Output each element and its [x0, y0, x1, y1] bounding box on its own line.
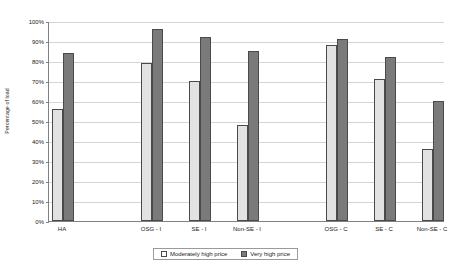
legend: Moderately high priceVery high price	[0, 248, 451, 260]
bar-group	[141, 21, 163, 221]
y-axis-title-text: Percentage of load	[4, 88, 10, 133]
light-swatch-icon	[161, 251, 167, 257]
y-axis-tick-label: 10%	[14, 199, 44, 205]
y-axis-tick-label: 100%	[14, 19, 44, 25]
bar[interactable]	[326, 45, 337, 221]
legend-item-label: Moderately high price	[170, 251, 227, 257]
y-axis-tick-labels: 0%10%20%30%40%50%60%70%80%90%100%	[14, 0, 44, 240]
bar[interactable]	[337, 39, 348, 221]
bar-group	[189, 21, 211, 221]
bar[interactable]	[152, 29, 163, 221]
x-axis-tick-label: Non-SE - I	[233, 226, 261, 232]
x-axis-tick-label: OSG - I	[141, 226, 161, 232]
x-axis-tick-labels: HAOSG - ISE - INon-SE - IOSG - CSE - CNo…	[48, 226, 444, 240]
y-axis-tick-label: 80%	[14, 59, 44, 65]
plot-area	[48, 22, 444, 222]
axis-tick-mark	[46, 182, 49, 183]
bar-group	[237, 21, 259, 221]
legend-item[interactable]: Moderately high price	[161, 251, 227, 257]
axis-tick-mark	[46, 162, 49, 163]
axis-tick-mark	[46, 22, 49, 23]
y-axis-tick-label: 30%	[14, 159, 44, 165]
bar-group	[374, 21, 396, 221]
x-axis-tick-label: Non-SE - C	[417, 226, 448, 232]
bar-group	[52, 21, 74, 221]
axis-tick-mark	[46, 62, 49, 63]
bar[interactable]	[63, 53, 74, 221]
bar-group	[326, 21, 348, 221]
bar[interactable]	[385, 57, 396, 221]
bar[interactable]	[141, 63, 152, 221]
bar[interactable]	[52, 109, 63, 221]
y-axis-tick-label: 20%	[14, 179, 44, 185]
y-axis-tick-label: 0%	[14, 219, 44, 225]
bar[interactable]	[189, 81, 200, 221]
y-axis-tick-label: 40%	[14, 139, 44, 145]
legend-item[interactable]: Very high price	[241, 251, 290, 257]
dark-swatch-icon	[241, 251, 247, 257]
legend-box: Moderately high priceVery high price	[153, 248, 298, 260]
axis-tick-mark	[46, 202, 49, 203]
x-axis-tick-label: OSG - C	[324, 226, 347, 232]
y-axis-title: Percentage of load	[2, 0, 12, 222]
axis-tick-mark	[46, 142, 49, 143]
bar[interactable]	[200, 37, 211, 221]
legend-item-label: Very high price	[250, 251, 290, 257]
bar[interactable]	[374, 79, 385, 221]
bar[interactable]	[422, 149, 433, 221]
bar[interactable]	[248, 51, 259, 221]
axis-tick-mark	[46, 82, 49, 83]
x-axis-tick-label: HA	[58, 226, 66, 232]
bar-group	[422, 21, 444, 221]
axis-tick-mark	[46, 102, 49, 103]
bar[interactable]	[433, 101, 444, 221]
bar-chart: Percentage of load 0%10%20%30%40%50%60%7…	[0, 0, 451, 266]
y-axis-tick-label: 90%	[14, 39, 44, 45]
bar[interactable]	[237, 125, 248, 221]
y-axis-tick-label: 60%	[14, 99, 44, 105]
x-axis-tick-label: SE - I	[191, 226, 206, 232]
y-axis-tick-label: 50%	[14, 119, 44, 125]
axis-tick-mark	[46, 122, 49, 123]
axis-tick-mark	[46, 42, 49, 43]
y-axis-tick-label: 70%	[14, 79, 44, 85]
axis-tick-mark	[46, 222, 49, 223]
x-axis-tick-label: SE - C	[375, 226, 393, 232]
